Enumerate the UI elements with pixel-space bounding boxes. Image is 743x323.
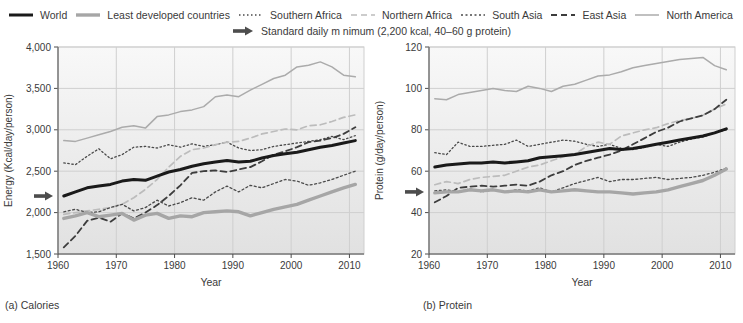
chart-svg-0: 1,5002,0002,5003,0003,5004,0001960197019…: [0, 38, 371, 290]
legend-label: Northern Africa: [382, 9, 452, 21]
legend-item-north_america: North America: [634, 9, 733, 21]
y-tick-label: 2,000: [26, 207, 51, 218]
legend-item-northern_africa: Northern Africa: [350, 9, 452, 21]
legend-item-standard-minimum: Standard daily m nimum (2,200 kcal, 40–6…: [0, 25, 743, 37]
x-axis-label: Year: [200, 276, 222, 288]
y-tick-label: 80: [411, 124, 423, 135]
x-tick-label: 2000: [280, 260, 303, 271]
legend-label: East Asia: [582, 9, 626, 21]
legend-label: Least developed countries: [107, 9, 230, 21]
south_asia-line-swatch-icon: [460, 10, 486, 20]
x-tick-label: 2010: [338, 260, 361, 271]
world-line-swatch-icon: [8, 10, 34, 20]
legend-item-southern_africa: Southern Africa: [238, 9, 342, 21]
figure: WorldLeast developed countriesSouthern A…: [0, 0, 743, 323]
standard-minimum-arrow-icon: [405, 187, 424, 196]
north_america-line-swatch-icon: [634, 10, 660, 20]
y-tick-label: 40: [411, 207, 423, 218]
right-arrow-icon: [232, 26, 254, 36]
x-axis-label: Year: [571, 276, 593, 288]
chart-legend: WorldLeast developed countriesSouthern A…: [0, 0, 743, 21]
y-axis-label: Energy (Kcal/day/person): [3, 94, 14, 207]
legend-label: South Asia: [492, 9, 542, 21]
chart-svg-1: 20406080100120196019701980199020002010Pr…: [371, 38, 742, 290]
legend-label: North America: [666, 9, 733, 21]
southern_africa-line-swatch-icon: [238, 10, 264, 20]
east_asia-line-swatch-icon: [550, 10, 576, 20]
legend-item-east_asia: East Asia: [550, 9, 626, 21]
caption-protein: (b) Protein: [423, 299, 742, 311]
x-tick-label: 1960: [418, 260, 441, 271]
calories-plot: 1,5002,0002,5003,0003,5004,0001960197019…: [0, 38, 371, 294]
y-tick-label: 100: [405, 83, 422, 94]
y-tick-label: 120: [405, 42, 422, 53]
standard-minimum-arrow-icon: [34, 192, 53, 201]
x-tick-label: 1990: [222, 260, 245, 271]
y-tick-label: 1,500: [26, 249, 51, 260]
caption-calories: (a) Calories: [5, 299, 371, 311]
x-tick-label: 1970: [476, 260, 499, 271]
x-tick-label: 1960: [47, 260, 70, 271]
x-tick-label: 1990: [593, 260, 616, 271]
charts-panel: 1,5002,0002,5003,0003,5004,0001960197019…: [0, 38, 743, 311]
legend-item-least_developed: Least developed countries: [75, 9, 230, 21]
legend-item-south_asia: South Asia: [460, 9, 542, 21]
northern_africa-line-swatch-icon: [350, 10, 376, 20]
legend-standard-label: Standard daily m nimum (2,200 kcal, 40–6…: [261, 25, 511, 37]
x-tick-label: 1980: [163, 260, 186, 271]
x-tick-label: 2000: [651, 260, 674, 271]
legend-label: World: [40, 9, 67, 21]
y-axis-label: Protein (g/day/person): [374, 101, 385, 200]
plot-area: [58, 47, 364, 254]
legend-label: Southern Africa: [270, 9, 342, 21]
x-tick-label: 1970: [105, 260, 128, 271]
x-tick-label: 2010: [709, 260, 732, 271]
y-tick-label: 4,000: [26, 42, 51, 53]
y-tick-label: 3,000: [26, 124, 51, 135]
y-tick-label: 3,500: [26, 83, 51, 94]
y-tick-label: 60: [411, 166, 423, 177]
y-tick-label: 20: [411, 249, 423, 260]
least_developed-line-swatch-icon: [75, 10, 101, 20]
y-tick-label: 2,500: [26, 166, 51, 177]
legend-item-world: World: [8, 9, 67, 21]
x-tick-label: 1980: [534, 260, 557, 271]
calories-chart: 1,5002,0002,5003,0003,5004,0001960197019…: [0, 38, 371, 311]
protein-chart: 20406080100120196019701980199020002010Pr…: [371, 38, 742, 311]
protein-plot: 20406080100120196019701980199020002010Pr…: [371, 38, 742, 294]
